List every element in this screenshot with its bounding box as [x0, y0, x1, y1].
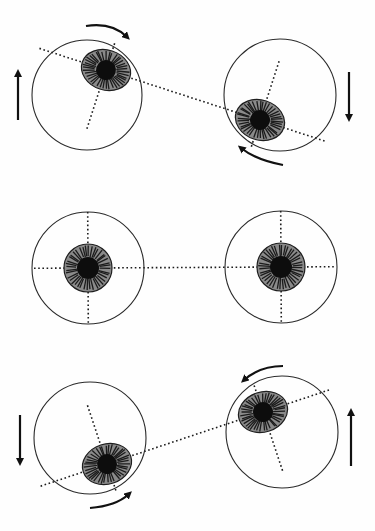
iris: [77, 437, 137, 491]
eye-left: [20, 382, 146, 494]
row-top: [18, 25, 349, 165]
iris: [64, 244, 112, 292]
row-bottom: [20, 366, 351, 508]
iris: [230, 93, 290, 146]
eye-left: [18, 40, 142, 150]
pupil: [77, 257, 99, 279]
iris-fiber: [89, 279, 90, 289]
iris: [76, 43, 136, 96]
pupil: [270, 256, 292, 278]
curved-arrow-counterclockwise-icon: [90, 494, 129, 508]
ocular-torsion-diagram: [0, 0, 375, 531]
iris-fiber: [258, 266, 270, 267]
eyeball-outline: [226, 376, 338, 488]
eye-right: [226, 376, 351, 488]
iris: [257, 243, 305, 291]
row-middle: [32, 211, 337, 324]
curved-arrow-clockwise-icon: [86, 25, 127, 37]
iris-fiber: [280, 277, 281, 289]
iris-fiber: [66, 266, 76, 267]
curved-arrow-counterclockwise-icon: [244, 366, 283, 380]
iris-fiber: [259, 268, 270, 269]
diagram-canvas: [0, 0, 375, 531]
eye-right: [224, 39, 349, 151]
iris-fiber: [280, 245, 281, 257]
